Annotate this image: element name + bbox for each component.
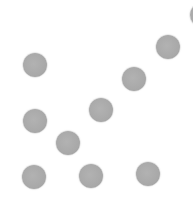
circle-dot bbox=[122, 67, 146, 91]
circle-dot bbox=[156, 35, 180, 59]
circle-dot bbox=[136, 162, 160, 186]
circle-dot bbox=[23, 53, 47, 77]
dot-pattern-canvas bbox=[0, 0, 193, 198]
circle-dot bbox=[22, 165, 46, 189]
circle-dot bbox=[23, 109, 47, 133]
circle-dot bbox=[56, 131, 80, 155]
circle-dot bbox=[190, 3, 193, 27]
circle-dot bbox=[89, 98, 113, 122]
circle-dot bbox=[79, 164, 103, 188]
